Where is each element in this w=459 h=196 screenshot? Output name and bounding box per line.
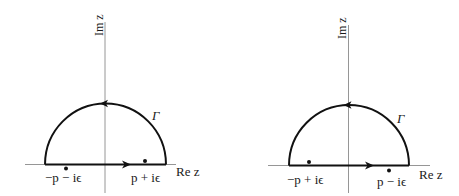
pole-dot (387, 169, 391, 173)
imaginary-axis-label: Im z (335, 17, 349, 39)
right-panel: −p + iϵ p − iϵ Re z Im z Γ (268, 17, 443, 193)
pole-dot (143, 159, 147, 163)
contour-arc (289, 105, 409, 166)
contour-label: Γ (396, 111, 405, 126)
real-axis-label: Re z (419, 167, 443, 182)
pole-label: p − iϵ (377, 174, 406, 189)
contour-arc (45, 103, 166, 164)
contour-label: Γ (151, 108, 160, 123)
pole-label: p + iϵ (131, 170, 160, 185)
real-axis-label: Re z (176, 164, 200, 179)
pole-label: −p + iϵ (287, 172, 324, 187)
imaginary-axis-label: Im z (92, 14, 106, 36)
pole-label: −p − iϵ (45, 170, 82, 185)
pole-dot (307, 160, 311, 164)
contour-diagrams: −p − iϵ p + iϵ Re z Im z Γ −p + iϵ p − i… (0, 0, 459, 196)
left-panel: −p − iϵ p + iϵ Re z Im z Γ (25, 14, 200, 193)
